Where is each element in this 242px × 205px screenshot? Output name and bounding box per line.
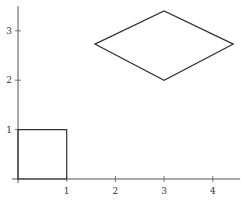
y-axis-ticks: 123 xyxy=(6,26,21,135)
x-tick-label: 2 xyxy=(113,186,119,196)
square-shape xyxy=(18,130,67,179)
shapes xyxy=(18,11,233,179)
rhombus-shape xyxy=(95,11,233,80)
x-tick-label: 3 xyxy=(161,186,167,196)
y-tick-label: 1 xyxy=(6,125,12,135)
y-tick-label: 2 xyxy=(6,75,12,85)
y-tick-label: 3 xyxy=(6,26,12,36)
x-tick-label: 1 xyxy=(64,186,70,196)
plot-area: 1234 123 xyxy=(0,0,242,205)
axes xyxy=(12,6,240,183)
x-tick-label: 4 xyxy=(210,186,216,196)
